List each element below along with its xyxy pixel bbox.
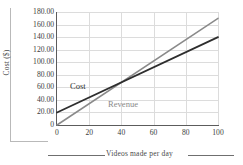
y-axis-tick-label: 80.00 [8, 70, 54, 79]
decorative-corner-rule [10, 141, 48, 142]
x-axis-tick-label: 80 [171, 128, 201, 137]
x-axis-tick-label: 60 [139, 128, 169, 137]
y-axis-tick-label: 20.00 [8, 107, 54, 116]
x-axis-tick-label: 20 [74, 128, 104, 137]
x-axis-tick-label: 0 [42, 128, 72, 137]
x-axis-tick-labels: 020406080100 [57, 128, 218, 142]
gridline-vertical [218, 12, 219, 125]
y-axis-tick-label: 120.00 [8, 45, 54, 54]
y-axis-tick-label: 100.00 [8, 57, 54, 66]
y-axis-tick-labels: 020.0040.0060.0080.00100.00120.00140.001… [4, 12, 54, 125]
x-axis-tick-label: 40 [106, 128, 136, 137]
series-annotation-cost: Cost [70, 81, 86, 91]
y-axis-tick-label: 60.00 [8, 82, 54, 91]
y-axis-tick-label: 160.00 [8, 20, 54, 29]
decorative-xtitle-rule-right [188, 155, 234, 156]
chart-figure: Cost ($) Videos made per day 020.0040.00… [0, 0, 243, 165]
x-axis-title: Videos made per day [106, 149, 173, 158]
y-axis-tick-label: 180.00 [8, 7, 54, 16]
decorative-xtitle-rule-left [48, 155, 105, 156]
y-axis-tick-label: 40.00 [8, 95, 54, 104]
x-axis-tick-label: 100 [203, 128, 233, 137]
y-axis-tick-label: 140.00 [8, 32, 54, 41]
x-axis-line [56, 125, 219, 126]
series-annotation-revenue: Revenue [108, 99, 138, 109]
